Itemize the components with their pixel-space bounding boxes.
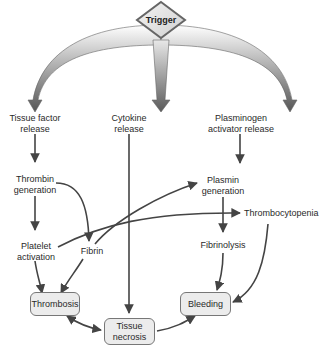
node-bleeding: Bleeding [180,292,231,316]
trigger-label: Trigger [146,15,177,25]
arrow-platelet-thrombosis [35,261,42,293]
node-plasminogen-activator-release: Plasminogen activator release [208,113,274,135]
node-fibrin: Fibrin [81,246,104,257]
arrow-necrosis-bleeding [157,316,195,331]
node-tissue-necrosis: Tissue necrosis [104,318,155,345]
node-fibrinolysis: Fibrinolysis [200,240,245,251]
trigger-arc-left [28,25,161,112]
arrow-thrombosis-necrosis [67,316,101,330]
arrow-fibrinolysis-bleeding [217,253,223,290]
arrow-thrombin-fibrin [56,183,89,241]
trigger-arc-right [161,25,297,112]
node-tissue-factor-release: Tissue factor release [9,113,60,135]
node-platelet-activation: Platelet activation [17,241,55,263]
arrow-thrombocytopenia-bleeding [233,224,268,302]
node-thrombosis: Thrombosis [30,292,80,316]
arrow-fibrin-plasmin [95,183,197,244]
node-thrombocytopenia: Thrombocytopenia [244,208,319,219]
node-plasmin-generation: Plasmin generation [202,175,245,197]
node-cytokine-release: Cytokine release [111,113,146,135]
trigger-arrow-center [152,40,170,112]
node-thrombin-generation: Thrombin generation [14,174,57,196]
arrow-fibrin-thrombosis [61,259,83,293]
